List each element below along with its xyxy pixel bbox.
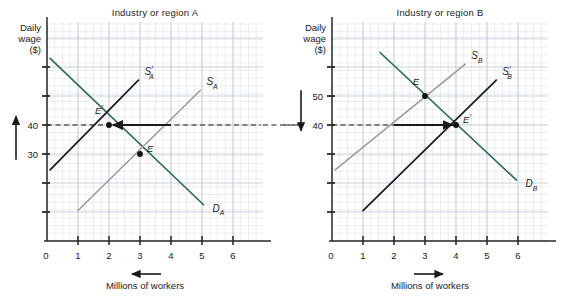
x-tick-label: 6 <box>230 250 235 261</box>
x-axis-origin-label: 0 <box>43 250 48 261</box>
y-axis-label-line: wage <box>302 33 326 44</box>
curve-label-S'_B: S′B <box>502 64 512 80</box>
x-tick-label: 6 <box>515 250 520 261</box>
y-tick-label: 40 <box>312 120 323 131</box>
x-tick-label: 4 <box>168 250 173 261</box>
x-tick-label: 1 <box>75 250 80 261</box>
curve-label-D_A: DA <box>213 203 225 217</box>
x-tick-label: 2 <box>106 250 111 261</box>
equilibrium-label-Eprime: E′ <box>463 112 471 125</box>
x-tick-label: 4 <box>453 250 458 261</box>
x-tick-label: 3 <box>422 250 427 261</box>
equilibrium-dot <box>137 151 143 157</box>
y-axis-label-line: ($) <box>29 44 41 55</box>
x-axis-origin-label: 0 <box>328 250 333 261</box>
curve-label-D_B: DB <box>525 178 537 192</box>
x-tick-label: 5 <box>484 250 489 261</box>
equilibrium-dot <box>453 122 459 128</box>
equilibrium-label-E: E <box>147 143 154 154</box>
equilibrium-label-E: E <box>413 76 420 87</box>
y-tick-label: 40 <box>27 120 38 131</box>
curve-label-S_B: SB <box>471 50 483 64</box>
y-tick-label: 30 <box>27 149 38 160</box>
x-tick-label: 2 <box>391 250 396 261</box>
x-tick-label: 5 <box>199 250 204 261</box>
y-axis-label-line: Daily <box>305 22 326 33</box>
x-tick-label: 1 <box>360 250 365 261</box>
equilibrium-dot <box>422 93 428 99</box>
panel-A: 30401234560Industry or region ADailywage… <box>16 7 271 291</box>
x-axis-label: Millions of workers <box>391 280 469 291</box>
curve-label-S'_A: S′A <box>144 64 154 80</box>
equilibrium-label-Eprime: E′ <box>95 103 103 116</box>
equilibrium-dot <box>106 122 112 128</box>
y-axis-label-line: wage <box>17 33 41 44</box>
x-tick-label: 3 <box>137 250 142 261</box>
x-axis-label: Millions of workers <box>106 280 184 291</box>
economics-supply-demand-figure: 30401234560Industry or region ADailywage… <box>0 0 574 308</box>
panel-B: 40501234560Industry or region BDailywage… <box>301 7 556 291</box>
figure-canvas: 30401234560Industry or region ADailywage… <box>0 0 574 308</box>
y-axis-label-line: Daily <box>20 22 41 33</box>
panel-title-B: Industry or region B <box>397 7 484 18</box>
y-tick-label: 50 <box>312 91 323 102</box>
y-axis-label-line: ($) <box>314 44 326 55</box>
panel-title-A: Industry or region A <box>112 7 199 18</box>
